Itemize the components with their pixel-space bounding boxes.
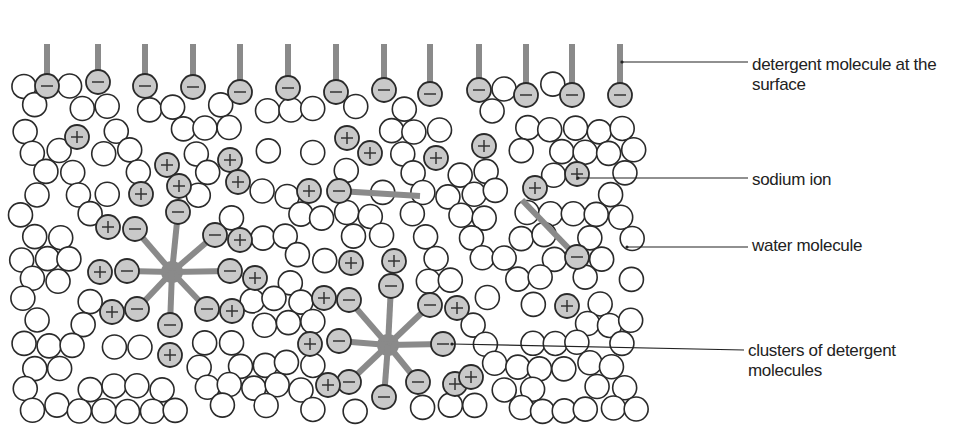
- water-molecule: [92, 142, 116, 166]
- water-molecule: [492, 246, 516, 270]
- sodium-ion: [565, 162, 589, 186]
- water-molecule: [46, 269, 70, 293]
- surface-detergent-head: [418, 82, 442, 106]
- water-molecule: [95, 94, 119, 118]
- surface-detergent-head: [372, 78, 396, 102]
- micelle-detergent-head: [195, 297, 219, 321]
- micelle-detergent-head: [158, 313, 182, 337]
- water-molecule: [301, 140, 325, 164]
- water-molecule: [274, 350, 298, 374]
- micelle-detergent-head: [166, 200, 190, 224]
- sodium-ion: [297, 179, 321, 203]
- water-molecule: [57, 247, 81, 271]
- micelle-detergent-head: [337, 288, 361, 312]
- sodium-ion: [316, 373, 340, 397]
- micelle-detergent-head: [379, 274, 403, 298]
- sodium-ion: [555, 294, 579, 318]
- sodium-ion: [382, 249, 406, 273]
- micelle-detergent-head: [203, 223, 227, 247]
- micelle-detergent-head: [406, 370, 430, 394]
- water-molecule: [550, 140, 574, 164]
- water-molecules: [9, 72, 649, 423]
- sodium-ion: [472, 134, 496, 158]
- sodium-ion: [358, 141, 382, 165]
- water-molecule: [125, 374, 149, 398]
- water-molecule: [342, 224, 366, 248]
- surface-detergent-head: [514, 83, 538, 107]
- sodium-ion: [158, 343, 182, 367]
- water-molecule: [171, 117, 195, 141]
- water-molecule: [102, 335, 126, 359]
- sodium-ion: [129, 182, 153, 206]
- water-molecule: [61, 160, 85, 184]
- label-line: molecules: [748, 361, 896, 381]
- water-molecule: [12, 331, 36, 355]
- water-molecule: [597, 141, 621, 165]
- water-molecule: [253, 313, 277, 337]
- water-molecule: [483, 351, 507, 375]
- water-molecule: [601, 396, 625, 420]
- free-detergent-head: [565, 245, 589, 269]
- water-molecule: [619, 267, 643, 291]
- sodium-ion: [220, 299, 244, 323]
- water-molecule: [538, 118, 562, 142]
- sodium-ion: [155, 153, 179, 177]
- water-molecule: [301, 397, 325, 421]
- water-molecule: [610, 331, 634, 355]
- micelle-detergent-head: [418, 293, 442, 317]
- water-molecule: [116, 400, 140, 424]
- label-line: surface: [752, 75, 936, 95]
- sodium-ion: [167, 174, 191, 198]
- water-molecule: [400, 202, 424, 226]
- water-molecule: [196, 160, 220, 184]
- sodium-ion: [445, 296, 469, 320]
- water-molecule: [25, 183, 49, 207]
- water-molecule: [509, 396, 533, 420]
- label-line: water molecule: [752, 236, 862, 256]
- water-molecule: [161, 95, 185, 119]
- water-molecule: [528, 265, 552, 289]
- water-molecule: [58, 74, 82, 98]
- water-molecule: [521, 331, 545, 355]
- water-molecule: [25, 308, 49, 332]
- water-molecule: [13, 120, 37, 144]
- micelle-detergent-head: [123, 217, 147, 241]
- water-molecule: [438, 393, 462, 417]
- micelle-detergent-head: [337, 370, 361, 394]
- water-molecule: [531, 399, 555, 423]
- water-molecule: [34, 159, 58, 183]
- water-molecule: [506, 355, 530, 379]
- water-molecule: [254, 394, 278, 418]
- micelle-detergent-head: [218, 259, 242, 283]
- micelle-detergent-head: [327, 329, 351, 353]
- water-molecule: [624, 397, 648, 421]
- surface-detergent-head: [35, 74, 59, 98]
- sodium-ion: [523, 176, 547, 200]
- label-line: detergent molecule at the: [752, 55, 936, 75]
- water-molecule: [193, 116, 217, 140]
- water-molecule: [193, 331, 217, 355]
- water-molecule: [276, 311, 300, 335]
- water-molecule: [210, 393, 234, 417]
- surface-detergent-head: [133, 74, 157, 98]
- water-molecule: [462, 182, 486, 206]
- surface-detergent-head: [560, 83, 584, 107]
- sodium-ion: [88, 260, 112, 284]
- water-molecule: [23, 225, 47, 249]
- surface-detergent-head: [467, 78, 491, 102]
- surface-detergent-head: [276, 76, 300, 100]
- water-molecule: [313, 249, 337, 273]
- sodium-ion: [335, 126, 359, 150]
- water-molecule: [49, 226, 73, 250]
- water-molecule: [565, 330, 589, 354]
- sodium-ion: [243, 266, 267, 290]
- surface-detergent-head: [86, 70, 110, 94]
- label-line: clusters of detergent: [748, 341, 896, 361]
- water-molecule: [475, 286, 499, 310]
- water-molecule: [483, 178, 507, 202]
- water-molecule: [424, 246, 448, 270]
- water-molecule: [543, 331, 567, 355]
- water-molecule: [480, 99, 504, 123]
- water-molecule: [428, 118, 452, 142]
- surface-detergent-head: [228, 80, 252, 104]
